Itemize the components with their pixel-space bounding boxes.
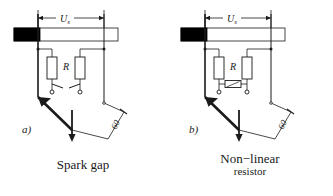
discharge-arrow-head-b	[205, 97, 218, 107]
diagram-a-svg: Us R	[0, 0, 166, 152]
caption-b-line1: Non−linear	[220, 151, 279, 166]
angle-dimension-b	[239, 102, 294, 139]
resistor-label-b: R	[229, 61, 236, 72]
caption-b-line2: resistor	[167, 166, 333, 178]
diagram-panel-a: Us R	[0, 0, 166, 196]
figure-container: Us R	[0, 0, 333, 196]
discharge-arrow-head-a	[38, 97, 51, 107]
dimension-us-label-b: Us	[227, 13, 237, 27]
busbar-b	[181, 28, 207, 41]
terminal-left-b	[217, 90, 221, 94]
terminal-right-b	[245, 90, 249, 94]
terminal-right-a	[78, 90, 82, 94]
angle-leg-upper-b	[271, 103, 291, 112]
angle-label-b: 60	[276, 118, 289, 131]
dimension-us-label-a: Us	[60, 13, 70, 27]
resistor-label-a: R	[62, 61, 69, 72]
angle-dimension-a	[72, 102, 127, 139]
discharge-arrow-b	[205, 97, 239, 130]
junction-right-a	[103, 48, 106, 51]
junction-left-a	[37, 48, 40, 51]
junction-left-b	[204, 48, 207, 51]
spark-electrode-left-a	[52, 84, 63, 88]
resistor-leads-a	[52, 79, 80, 84]
angle-leg-base-a	[72, 130, 108, 139]
resistor-right-b	[242, 57, 252, 79]
dimension-us-a	[38, 10, 104, 30]
spark-electrode-right-a	[69, 84, 80, 88]
resistor-left-a	[47, 57, 57, 79]
terminal-left-a	[50, 90, 54, 94]
non-linear-resistor-element-b	[225, 81, 241, 88]
panel-index-label-b: b)	[189, 123, 199, 136]
busbar-a	[14, 28, 40, 41]
resistor-right-a	[75, 57, 85, 79]
dimension-arrow-right-b	[266, 16, 271, 20]
angle-node-top-b	[270, 102, 273, 105]
dimension-arrow-right-a	[99, 16, 104, 20]
angle-label-a: 60	[109, 118, 122, 131]
angle-leg-base-b	[239, 130, 275, 139]
caption-a-line1: Spark gap	[57, 157, 109, 172]
angle-leg-upper-a	[104, 103, 124, 112]
spark-gap-element-a	[52, 84, 80, 90]
caption-a: Spark gap	[0, 158, 166, 172]
angle-node-top-a	[103, 102, 106, 105]
resistor-left-b	[214, 57, 224, 79]
diagram-panel-b: Us R	[167, 0, 333, 196]
caption-b: Non−linear resistor	[167, 152, 333, 177]
discharge-arrow-a	[38, 97, 72, 130]
junction-right-b	[270, 48, 273, 51]
dimension-us-b	[205, 10, 271, 30]
down-arrow-head-b	[235, 134, 242, 142]
panel-index-label-a: a)	[22, 123, 32, 136]
diagram-b-svg: Us R	[167, 0, 333, 152]
down-arrow-head-a	[68, 134, 75, 142]
